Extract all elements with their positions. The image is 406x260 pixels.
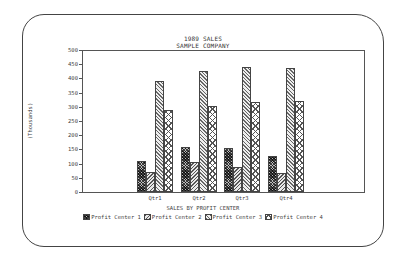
bar-qtr3-series-2: [233, 167, 242, 192]
bar-qtr4-series-2: [277, 173, 286, 192]
legend-label: Profit Center 4: [273, 214, 323, 220]
legend-swatch-icon: [144, 214, 151, 220]
legend-label: Profit Center 3: [213, 214, 263, 220]
legend-label: Profit Center 1: [91, 214, 141, 220]
bar-qtr4-series-3: [286, 68, 295, 192]
bar-qtr3-series-4: [251, 102, 260, 192]
legend-item: Profit Center 4: [265, 214, 323, 220]
bar-qtr2-series-4: [208, 106, 217, 192]
x-axis-label: SALES BY PROFIT CENTER: [0, 205, 406, 211]
bar-qtr4-series-1: [268, 156, 277, 192]
legend-label: Profit Center 2: [152, 214, 202, 220]
y-tick-label: 500: [68, 47, 78, 53]
y-tick-label: 450: [68, 61, 78, 67]
bar-qtr2-series-1: [181, 147, 190, 192]
bar-qtr1-series-3: [155, 81, 164, 192]
x-tick-label: Qtr2: [192, 195, 205, 201]
y-tick-label: 350: [68, 90, 78, 96]
x-tick-label: Qtr3: [235, 195, 248, 201]
bar-qtr2-series-3: [199, 71, 208, 192]
bar-qtr1-series-2: [146, 172, 155, 192]
chart-subtitle: SAMPLE COMPANY: [0, 42, 406, 49]
y-tick-label: 50: [71, 175, 78, 181]
y-tick-label: 150: [68, 146, 78, 152]
legend-swatch-icon: [205, 214, 212, 220]
bar-qtr1-series-4: [164, 110, 173, 192]
legend-item: Profit Center 2: [144, 214, 202, 220]
bar-qtr3-series-3: [242, 67, 251, 192]
x-tick-label: Qtr4: [279, 195, 292, 201]
legend-item: Profit Center 3: [205, 214, 263, 220]
y-tick-label: 400: [68, 75, 78, 81]
bar-qtr3-series-1: [224, 148, 233, 192]
bar-qtr2-series-2: [190, 162, 199, 192]
y-axis-label: (Thousands): [27, 103, 33, 139]
bar-qtr1-series-1: [137, 161, 146, 192]
y-tick-label: 0: [75, 189, 78, 195]
legend-swatch-icon: [265, 214, 272, 220]
y-tick-label: 250: [68, 118, 78, 124]
legend-item: Profit Center 1: [83, 214, 141, 220]
y-tick-label: 200: [68, 132, 78, 138]
y-tick-label: 300: [68, 104, 78, 110]
y-tick-label: 100: [68, 161, 78, 167]
x-tick-label: Qtr1: [148, 195, 161, 201]
legend-swatch-icon: [83, 214, 90, 220]
bar-qtr4-series-4: [295, 101, 304, 192]
legend: Profit Center 1Profit Center 2Profit Cen…: [0, 214, 406, 220]
plot-area: [82, 50, 365, 193]
chart-title: 1989 SALES: [0, 35, 406, 42]
